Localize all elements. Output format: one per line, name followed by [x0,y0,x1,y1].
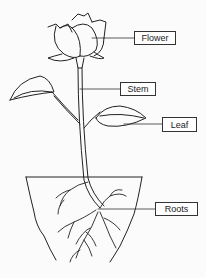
leader-lines [80,38,162,209]
flower-drawing [48,13,106,68]
flower-label: Flower [134,31,176,45]
soil-drawing [26,177,142,262]
leaf-label: Leaf [162,117,197,132]
roots-label: Roots [155,202,198,216]
stem-label: Stem [120,82,156,96]
roots-drawing [56,182,126,262]
plant-diagram: Flower Stem Leaf Roots [0,0,206,278]
